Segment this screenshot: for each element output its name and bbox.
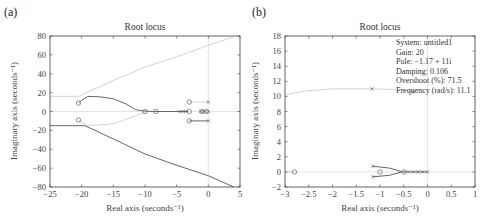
x-tick-label: −5: [172, 189, 181, 199]
plot-title-a: Root locus: [125, 22, 166, 32]
locus-branches-a: [50, 37, 234, 187]
zero-marker: [76, 101, 80, 105]
y-tick-label: 60: [38, 50, 47, 60]
panel-label-a: (a): [4, 5, 17, 19]
locus-branches-b: [285, 89, 428, 177]
x-tick-label: −10: [138, 189, 151, 199]
zero-marker: [76, 118, 80, 122]
locus-branch-upper-light: [50, 37, 234, 97]
datatip-line-frequency: Frequency (rad/s): 11.1: [396, 86, 471, 95]
y-tick-label: 80: [38, 31, 47, 41]
y-tick-label: 8: [277, 107, 281, 117]
y-tick-label: 12: [273, 76, 282, 86]
y-tick-label: 2: [277, 152, 281, 162]
datatip-line-pole: Pole: −1.17 + 11i: [396, 57, 452, 66]
root-locus-figure: (a) (b) Root locus −25−20−15−10−505−80−6…: [0, 0, 492, 223]
locus-branch-lower-light: [79, 112, 146, 126]
y-tick-label: 40: [38, 69, 47, 79]
locus-branch-upper-dark: [79, 96, 155, 111]
root-locus-plot-a: Root locus −25−20−15−10−505−80−60−40−200…: [9, 22, 242, 213]
y-tick-label: 6: [277, 122, 281, 132]
datatip-annotation: System: untitled1 Gain: 20 Pole: −1.17 +…: [396, 38, 471, 95]
y-tick-label: −60: [33, 163, 46, 173]
x-tick-label: 0.5: [446, 189, 457, 199]
x-tick-label: −15: [107, 189, 120, 199]
datatip-line-overshoot: Overshoot (%): 71.5: [396, 76, 462, 85]
x-axis-label-b: Real axis (seconds⁻¹): [341, 203, 418, 213]
y-axis-label-a: Imaginary axis (seconds⁻¹): [9, 62, 19, 160]
datatip-line-damping: Damping: 0.106: [396, 67, 448, 76]
y-axis-label-b: Imaginary axis (seconds⁻¹): [250, 62, 260, 160]
x-tick-label: 0: [206, 189, 210, 199]
x-tick-label: −1.5: [349, 189, 364, 199]
pole-zero-markers-b: [292, 87, 429, 178]
x-tick-label: −2.5: [301, 189, 316, 199]
x-tick-label: −1: [375, 189, 384, 199]
y-tick-label: 10: [273, 91, 282, 101]
y-tick-label: −20: [33, 125, 46, 135]
y-tick-label: −2: [272, 182, 281, 192]
x-tick-label: −0.5: [396, 189, 411, 199]
locus-branch-lower-dark: [50, 126, 234, 187]
y-tick-label: 4: [277, 137, 282, 147]
datatip-line-system: System: untitled1: [396, 38, 452, 47]
y-tick-label: 16: [273, 46, 282, 56]
y-tick-label: −80: [33, 182, 46, 192]
x-tick-label: 0: [425, 189, 429, 199]
x-tick-label: −2: [328, 189, 337, 199]
root-locus-plot-b: Root locus −3−2.5−2−1.5−1−0.500.51−20246…: [250, 22, 477, 213]
locus-upper-arc-light: [285, 89, 413, 95]
y-tick-label: 20: [38, 88, 47, 98]
y-tick-label: 18: [273, 31, 282, 41]
x-tick-label: 1: [473, 189, 477, 199]
x-tick-label: −20: [75, 189, 88, 199]
x-tick-label: −3: [280, 189, 289, 199]
plot-title-b: Root locus: [360, 22, 401, 32]
y-tick-label: 14: [273, 61, 282, 71]
x-axis-label-a: Real axis (seconds⁻¹): [106, 203, 183, 213]
y-tick-label: 0: [277, 167, 281, 177]
panel-label-b: (b): [252, 5, 266, 19]
y-tick-label: −40: [33, 144, 46, 154]
locus-loop-lower: [373, 172, 402, 177]
y-tick-label: 0: [42, 107, 46, 117]
locus-loop-upper: [373, 166, 402, 172]
x-tick-label: 5: [238, 189, 242, 199]
datatip-line-gain: Gain: 20: [396, 48, 424, 57]
